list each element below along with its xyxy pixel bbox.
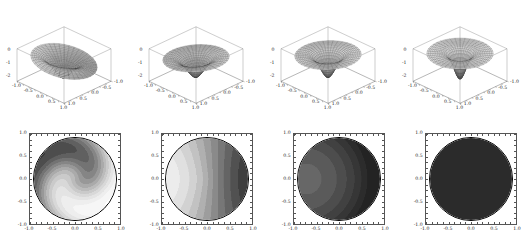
y-axis-tick-label: 1.0	[415, 131, 424, 136]
x-axis-tick-label: -1.0	[157, 226, 166, 232]
contour-tick	[426, 162, 428, 163]
contour-tick	[252, 134, 253, 136]
y-axis-tick-label: 1.0	[283, 131, 292, 136]
axis-tick-label: 0	[8, 48, 11, 53]
contour-tick	[505, 222, 506, 224]
x-axis-tick-label: 0.5	[226, 226, 233, 232]
contour-tick	[382, 179, 384, 180]
contour-tick	[317, 222, 318, 224]
contour-tick	[499, 222, 500, 224]
contour-tick	[514, 207, 516, 208]
contour-tick	[514, 173, 516, 174]
contour-tick	[426, 168, 428, 169]
contour-plot-3: 1.00.50.0-0.5-1.0-1.0-0.50.00.51.0	[293, 133, 385, 225]
contour-tick	[382, 196, 384, 197]
contour-tick	[333, 222, 334, 224]
contour-tick	[58, 222, 59, 224]
contour-plot-4: 1.00.50.0-0.5-1.0-1.0-0.50.00.51.0	[425, 133, 517, 225]
surface-plot-3: 0-1-2-1.0-0.50.00.51.0-1.0-0.50.00.51.0	[264, 0, 396, 125]
contour-tick	[118, 196, 120, 197]
mesh-lines-2	[163, 44, 229, 77]
contour-tick	[465, 134, 466, 136]
contour-tick	[250, 185, 252, 186]
contour-tick	[185, 222, 186, 224]
contour-tick	[477, 222, 478, 224]
contour-tick	[173, 222, 174, 224]
contour-plot-2: 1.00.50.0-0.5-1.0-1.0-0.50.00.51.0	[161, 133, 253, 225]
axis-tick-label: -1.0	[114, 80, 123, 85]
contour-tick	[41, 222, 42, 224]
contour-tick	[514, 151, 516, 152]
contour-tick	[432, 222, 433, 224]
axis-tick-label: -1.0	[378, 80, 387, 85]
x-axis-tick-label: 1.0	[117, 226, 124, 232]
contour-tick	[30, 145, 32, 146]
contour-bands-4	[430, 138, 513, 221]
contour-tick	[168, 222, 169, 224]
axis-tick-label: 0.5	[312, 100, 319, 105]
contour-tick	[118, 185, 120, 186]
surface-plot-4: 0-1-2-1.0-0.50.00.51.0-1.0-0.50.00.51.0	[396, 0, 527, 125]
contour-tick	[250, 151, 252, 152]
surface-plot-1: 0-1-2-1.0-0.50.00.51.0-1.0-0.50.00.51.0	[0, 0, 132, 125]
contour-disk-3	[297, 137, 382, 222]
x-axis-tick-label: 0.5	[358, 226, 365, 232]
contour-tick	[339, 134, 340, 136]
contour-tick	[426, 173, 428, 174]
contour-tick	[118, 145, 120, 146]
axis-tick-label: 1.0	[464, 102, 471, 107]
axis-tick-label: 1.0	[456, 105, 463, 110]
surface-panel-4: 0-1-2-1.0-0.50.00.51.0-1.0-0.50.00.51.0	[396, 0, 527, 125]
contour-tick	[250, 213, 252, 214]
contour-tick	[30, 185, 32, 186]
contour-tick	[162, 168, 164, 169]
contour-tick	[345, 222, 346, 224]
axis-tick-label: 1.0	[200, 102, 207, 107]
contour-tick	[30, 218, 32, 219]
contour-tick	[328, 222, 329, 224]
contour-bands-2	[166, 138, 249, 221]
contour-tick	[47, 222, 48, 224]
y-axis-tick-label: -0.5	[282, 200, 292, 205]
axis-tick-label: 0	[272, 48, 275, 53]
contour-tick	[30, 179, 32, 180]
contour-tick	[514, 202, 516, 203]
contour-tick	[382, 157, 384, 158]
contour-tick	[482, 222, 483, 224]
contour-tick	[426, 207, 428, 208]
contour-tick	[382, 218, 384, 219]
contour-tick	[250, 168, 252, 169]
axis-tick-label: -1	[6, 61, 10, 66]
contour-tick	[250, 196, 252, 197]
contour-tick	[505, 134, 506, 136]
contour-tick	[294, 134, 296, 135]
contour-tick	[426, 224, 428, 225]
contour-tick	[294, 179, 296, 180]
contour-tick	[382, 207, 384, 208]
contour-tick	[30, 168, 32, 169]
contour-tick	[246, 134, 247, 136]
contour-tick	[64, 222, 65, 224]
figure-canvas: 0-1-2-1.0-0.50.00.51.0-1.0-0.50.00.51.0 …	[0, 0, 527, 250]
x-axis-tick-label: 0.5	[94, 226, 101, 232]
contour-tick	[118, 207, 120, 208]
contour-tick	[378, 222, 379, 224]
y-axis-tick-label: 0.5	[151, 154, 160, 159]
contour-tick	[426, 202, 428, 203]
contour-tick	[345, 134, 346, 136]
contour-tick	[69, 222, 70, 224]
x-axis-tick-label: 0.0	[335, 226, 342, 232]
contour-tick	[488, 134, 489, 136]
contour-tick	[382, 168, 384, 169]
contour-tick	[339, 222, 340, 224]
contour-tick	[432, 134, 433, 136]
axis-tick-label: 0.5	[80, 96, 87, 101]
contour-tick	[114, 134, 115, 136]
contour-tick	[30, 151, 32, 152]
contour-tick	[460, 134, 461, 136]
axis-tick-label: 0.5	[476, 96, 483, 101]
contour-tick	[488, 222, 489, 224]
contour-tick	[494, 222, 495, 224]
contour-tick	[118, 179, 120, 180]
contour-tick	[47, 134, 48, 136]
